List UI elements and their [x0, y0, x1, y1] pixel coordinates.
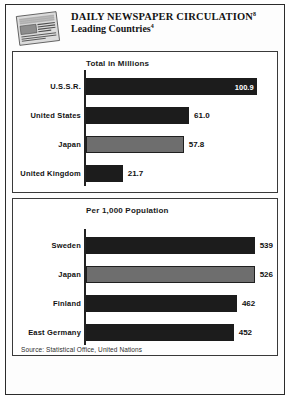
- title-block: DAILY NEWSPAPER CIRCULATION8 Leading Cou…: [64, 10, 278, 35]
- bar-track: 452: [86, 318, 273, 347]
- bar-track: 21.7: [86, 159, 273, 188]
- source-note: Source: Statistical Office, United Natio…: [21, 346, 142, 353]
- page-title-text: DAILY NEWSPAPER CIRCULATION: [71, 11, 253, 22]
- bar-value-label: 61.0: [194, 111, 210, 120]
- bar: [86, 136, 184, 153]
- bar-value-label: 57.8: [189, 140, 205, 149]
- bar-row: Japan526: [13, 260, 277, 289]
- page-subtitle-superscript: 4: [151, 23, 154, 29]
- bar-track: 61.0: [86, 101, 273, 130]
- chart-axis-label-bottom: Per 1,000 Population: [86, 206, 169, 215]
- chart-panel-per-1000: Per 1,000 Population Sweden539Japan526Fi…: [12, 198, 278, 356]
- bar-row: Finland462: [13, 289, 277, 318]
- bar-value-label: 526: [260, 270, 273, 279]
- bar-category-label: Finland: [13, 299, 81, 308]
- bar-category-label: United States: [13, 111, 81, 120]
- bar: [86, 107, 189, 124]
- bar: 100.9: [86, 78, 257, 95]
- figure-header: DAILY NEWSPAPER CIRCULATION8 Leading Cou…: [12, 10, 278, 50]
- bar-value-label: 539: [260, 241, 273, 250]
- bar-category-label: Japan: [13, 140, 81, 149]
- page-subtitle: Leading Countries4: [71, 23, 278, 35]
- page-title-superscript: 8: [253, 11, 256, 17]
- bar-row: Japan57.8: [13, 130, 277, 159]
- page-subtitle-text: Leading Countries: [71, 23, 151, 34]
- chart-axis-label-top: Total in Millions: [86, 59, 149, 68]
- bar-category-label: Sweden: [13, 241, 81, 250]
- figure-root: DAILY NEWSPAPER CIRCULATION8 Leading Cou…: [0, 0, 290, 399]
- bar-group-bottom: Sweden539Japan526Finland462East Germany4…: [13, 231, 277, 347]
- bar-track: 100.9: [86, 72, 273, 101]
- bar-value-label: 100.9: [235, 82, 254, 91]
- newspaper-icon: [12, 10, 64, 48]
- bar-row: East Germany452: [13, 318, 277, 347]
- bar-value-label: 462: [242, 299, 255, 308]
- bar-group-top: U.S.S.R.100.9United States61.0Japan57.8U…: [13, 72, 277, 188]
- bar-track: 539: [86, 231, 273, 260]
- page-title: DAILY NEWSPAPER CIRCULATION8: [71, 11, 278, 23]
- bar-row: Sweden539: [13, 231, 277, 260]
- bar: [86, 237, 255, 254]
- bar-value-label: 21.7: [128, 169, 144, 178]
- bar: [86, 165, 123, 182]
- chart-panel-total-millions: Total in Millions U.S.S.R.100.9United St…: [12, 51, 278, 193]
- bar-category-label: East Germany: [13, 328, 81, 337]
- figure-frame: DAILY NEWSPAPER CIRCULATION8 Leading Cou…: [5, 4, 285, 395]
- bar-track: 462: [86, 289, 273, 318]
- bar-track: 526: [86, 260, 273, 289]
- bar: [86, 324, 234, 341]
- bar-category-label: U.S.S.R.: [13, 82, 81, 91]
- bar-value-label: 452: [239, 328, 252, 337]
- bar-category-label: United Kingdom: [13, 169, 81, 178]
- bar: [86, 266, 255, 283]
- bar: [86, 295, 237, 312]
- bar-track: 57.8: [86, 130, 273, 159]
- bar-row: United Kingdom21.7: [13, 159, 277, 188]
- bar-row: U.S.S.R.100.9: [13, 72, 277, 101]
- bar-category-label: Japan: [13, 270, 81, 279]
- bar-row: United States61.0: [13, 101, 277, 130]
